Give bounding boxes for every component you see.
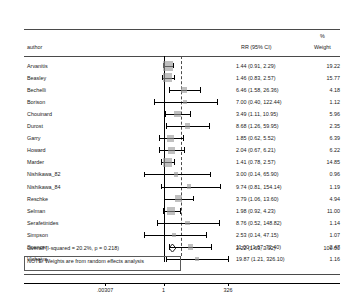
header-rule [24,56,340,57]
confidence-interval-cap [228,256,229,262]
confidence-interval-cap [206,232,207,238]
study-author: Reschke [27,193,48,205]
table-top-rule [24,29,340,30]
note-text: NOTE: Weights are from random effects an… [27,258,144,264]
study-ci: 19.87 (1.21, 326.10) [236,253,285,265]
confidence-interval-cap [157,220,158,226]
confidence-interval-cap [154,99,155,105]
confidence-interval-cap [193,196,194,202]
confidence-interval-cap [161,159,162,165]
table-row: Durost8.68 (1.26, 59.95)2.35 [0,120,364,132]
study-author: Chouinard [27,108,52,120]
confidence-interval-cap [190,111,191,117]
study-weight: 1.07 [312,229,340,241]
study-weight-box [174,111,181,118]
study-ci: 8.68 (1.26, 59.95) [236,120,279,132]
confidence-interval-cap [174,75,175,81]
overall-label: Overall (I-squared = 20.2%, p = 0.218) [27,242,119,254]
study-weight-box [187,184,191,188]
study-author: Durost [27,120,43,132]
study-weight-box [195,257,199,261]
confidence-interval-cap [200,87,201,93]
study-weight: 6.22 [312,144,340,156]
study-ci: 6.46 (1.58, 26.36) [236,84,279,96]
study-ci: 9.74 (0.81, 154.14) [236,181,282,193]
study-ci: 1.85 (0.62, 5.52) [236,132,276,144]
confidence-interval-cap [209,123,210,129]
column-header-author: author [27,44,42,50]
table-row: Bechelli6.46 (1.58, 26.36)4.18 [0,84,364,96]
study-weight: 15.77 [312,72,340,84]
study-author: Bechelli [27,84,46,96]
study-weight-box [174,172,178,176]
column-header-percent: % [320,33,325,39]
confidence-interval-cap [169,87,170,93]
study-author: Marder [27,156,44,168]
column-header-rr: RR (95% CI) [241,44,272,50]
study-ci: 7.00 (0.40, 122.44) [236,96,282,108]
study-weight-box [163,73,172,82]
confidence-interval-cap [217,99,218,105]
x-axis-tick-high [228,283,229,286]
study-weight: 19.22 [312,60,340,72]
table-row: Marder1.41 (0.78, 2.57)14.85 [0,156,364,168]
study-author: Garry [27,132,40,144]
study-ci: 3.00 (0.14, 65.90) [236,168,279,180]
confidence-interval-cap [220,184,221,190]
study-ci: 1.41 (0.78, 2.57) [236,156,276,168]
study-ci: 2.04 (0.67, 6.21) [236,144,276,156]
study-weight: 0.96 [312,168,340,180]
study-weight: 4.18 [312,84,340,96]
study-ci: 1.98 (0.92, 4.23) [236,205,276,217]
axis-top-rule [24,274,340,275]
study-weight: 1.19 [312,181,340,193]
study-weight-box [175,195,181,201]
study-weight-box [185,123,190,128]
study-ci: 2.53 (0.14, 47.15) [236,229,279,241]
confidence-interval-cap [219,220,220,226]
study-weight: 1.14 [312,217,340,229]
study-ci: 8.76 (0.52, 148.82) [236,217,282,229]
study-author: Nishikawa_84 [27,181,61,193]
study-weight: 11.00 [312,205,340,217]
table-row: Howard2.04 (0.67, 6.21)6.22 [0,144,364,156]
confidence-interval-cap [161,184,162,190]
confidence-interval-cap [164,196,165,202]
study-weight-box [163,158,172,167]
confidence-interval-cap [163,208,164,214]
study-ci: 1.44 (0.91, 2.29) [236,60,276,72]
x-axis-label-mid: 1 [144,287,184,293]
study-author: Borison [27,96,45,108]
study-weight: 4.94 [312,193,340,205]
study-author: Nishikawa_82 [27,168,61,180]
overall-row: Overall (I-squared = 20.2%, p = 0.218) 2… [0,242,364,254]
study-author: Howard [27,144,46,156]
study-author: Simpson [27,229,48,241]
study-weight-box [183,100,187,104]
confidence-interval-cap [184,147,185,153]
table-row: Garry1.85 (0.62, 5.52)6.39 [0,132,364,144]
study-weight-box [167,207,175,215]
confidence-interval-cap [183,135,184,141]
study-author: Arvanitis [27,60,48,72]
overall-diamond [169,244,176,252]
x-axis-tick-mid [164,283,165,286]
study-weight: 6.39 [312,132,340,144]
table-row: Beasley1.46 (0.83, 2.57)15.77 [0,72,364,84]
confidence-interval-cap [159,135,160,141]
confidence-interval-cap [210,172,211,178]
x-axis-line [24,283,340,284]
confidence-interval-cap [165,111,166,117]
confidence-interval-cap [174,159,175,165]
x-axis-label-low: .00307 [85,287,125,293]
confidence-interval-cap [166,123,167,129]
study-weight: 5.96 [312,108,340,120]
study-weight-box [167,135,174,142]
confidence-interval-cap [173,63,174,69]
x-axis-label-high: 326 [208,287,248,293]
study-weight-box [168,147,175,154]
table-row: Selman1.98 (0.92, 4.23)11.00 [0,205,364,217]
study-weight: 14.85 [312,156,340,168]
study-weight-box [185,221,189,225]
study-ci: 1.46 (0.83, 2.57) [236,72,276,84]
